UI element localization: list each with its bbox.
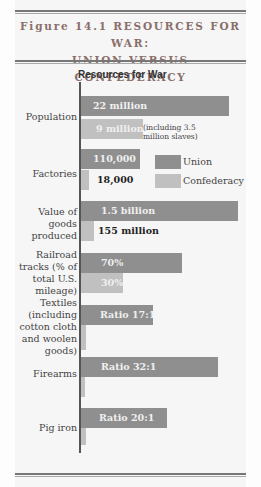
top-rule bbox=[15, 10, 246, 12]
label-union-population: 22 million bbox=[93, 96, 147, 116]
label-confed-factories: 18,000 bbox=[97, 170, 133, 190]
bottom-rule-thin bbox=[15, 476, 246, 477]
legend-label-confederacy: Confederacy bbox=[183, 175, 244, 186]
category-pig-iron: Pig iron bbox=[39, 422, 77, 434]
bar-confed-textiles bbox=[81, 325, 86, 350]
population-note: (including 3.5 million slaves) bbox=[143, 123, 213, 141]
bar-confed-pig-iron bbox=[81, 428, 86, 445]
bar-confed-goods bbox=[81, 221, 94, 241]
category-firearms: Firearms bbox=[33, 368, 77, 380]
category-factories: Factories bbox=[32, 168, 77, 180]
category-population: Population bbox=[26, 111, 77, 123]
category-railroad: Railroad tracks (% of total U.S. mileage… bbox=[15, 249, 77, 297]
legend-label-union: Union bbox=[183, 156, 212, 167]
category-textiles: Textiles (including cotton cloth and woo… bbox=[15, 297, 77, 357]
label-confed-population: 9 million bbox=[96, 119, 144, 139]
label-union-factories: 110,000 bbox=[93, 149, 136, 169]
top-rule-thin bbox=[15, 13, 246, 14]
bar-confed-firearms bbox=[81, 377, 85, 397]
label-union-railroad: 70% bbox=[101, 253, 123, 273]
category-value-of-goods: Value of goods produced bbox=[17, 206, 77, 242]
label-union-pig-iron: Ratio 20:1 bbox=[99, 408, 154, 428]
label-confed-railroad: 30% bbox=[101, 273, 123, 293]
legend-swatch-union bbox=[155, 155, 181, 169]
label-union-textiles: Ratio 17:1 bbox=[100, 305, 155, 325]
bar-confed-factories bbox=[81, 170, 89, 190]
label-union-firearms: Ratio 32:1 bbox=[101, 357, 156, 377]
bottom-rule bbox=[15, 473, 246, 475]
chart-subtitle: Resources for War bbox=[78, 69, 167, 80]
mid-rule-thin bbox=[15, 63, 246, 64]
legend-swatch-confederacy bbox=[155, 174, 181, 188]
bar-union-railroad bbox=[81, 253, 182, 273]
label-confed-goods: 155 million bbox=[98, 221, 159, 241]
title-line-1: Figure 14.1 RESOURCES FOR WAR: bbox=[15, 18, 246, 52]
label-union-goods: 1.5 billion bbox=[101, 201, 155, 221]
mid-rule bbox=[15, 60, 246, 62]
